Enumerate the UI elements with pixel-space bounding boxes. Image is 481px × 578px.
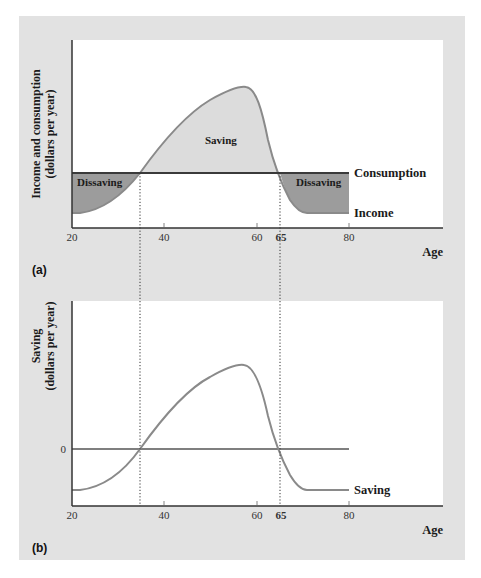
y-axis-label-b-line2: (dollars per year) [43, 301, 57, 390]
y-axis-label-a-line2: (dollars per year) [43, 89, 57, 178]
panel-tag-b: (b) [32, 541, 47, 555]
plot-area-b [72, 301, 443, 506]
tick-40: 40 [159, 509, 171, 521]
tick-60: 60 [252, 509, 264, 521]
tick-80: 80 [344, 231, 356, 243]
dissaving-label-right: Dissaving [296, 176, 342, 188]
tick-65: 65 [276, 509, 288, 521]
panel-b: 0 20 40 60 65 80 Saving Age Saving (doll… [29, 301, 443, 555]
saving-curve-label: Saving [354, 483, 391, 497]
x-axis-label-b: Age [422, 523, 443, 537]
tick-zero: 0 [61, 443, 67, 455]
tick-40: 40 [159, 231, 171, 243]
income-label: Income [354, 206, 394, 220]
tick-20: 20 [67, 231, 79, 243]
tick-65: 65 [276, 231, 288, 243]
x-axis-label-a: Age [422, 245, 443, 259]
y-axis-label-b-line1: Saving [29, 329, 43, 364]
panel-tag-a: (a) [32, 263, 47, 277]
saving-label: Saving [205, 134, 237, 146]
tick-20: 20 [67, 509, 79, 521]
y-axis-label-a: Income and consumption (dollars per year… [29, 69, 57, 199]
y-axis-label-b: Saving (dollars per year) [29, 301, 57, 390]
tick-80: 80 [344, 509, 356, 521]
dissaving-label-left: Dissaving [77, 176, 123, 188]
y-axis-label-a-line1: Income and consumption [29, 69, 43, 199]
tick-60: 60 [252, 231, 264, 243]
panel-a: 20 40 60 65 80 Saving Dissaving Dissavin… [29, 40, 443, 277]
consumption-label: Consumption [354, 166, 426, 180]
figure-svg: 20 40 60 65 80 Saving Dissaving Dissavin… [0, 0, 481, 578]
